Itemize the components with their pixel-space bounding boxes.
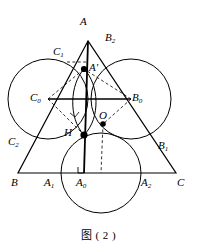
label-A1: A1: [44, 177, 54, 188]
point-a-prime: [81, 66, 87, 72]
geometry-figure: A B C A' H O A0 A1 A2 B0 B1 B2 C0 C1 C2: [0, 0, 197, 249]
label-B2: B2: [105, 32, 115, 43]
label-A-prime: A': [89, 62, 98, 73]
dashed-c0-aprime: [48, 69, 84, 99]
right-angle-mark-h: [70, 112, 79, 117]
label-C1: C1: [53, 46, 64, 57]
label-B0: B0: [132, 92, 142, 103]
label-A0: A0: [76, 177, 86, 188]
label-C: C: [177, 177, 184, 188]
label-A2: A2: [141, 177, 151, 188]
right-angle-mark-a0: [78, 167, 84, 173]
label-C2: C2: [8, 136, 19, 147]
label-H: H: [64, 127, 72, 138]
dashed-o-a0: [101, 124, 103, 173]
label-C0: C0: [30, 92, 41, 103]
point-o: [100, 121, 106, 127]
geometry-canvas: [0, 0, 197, 249]
label-B: B: [11, 177, 18, 188]
label-O: O: [99, 110, 107, 121]
label-A: A: [80, 16, 87, 27]
point-h: [80, 131, 87, 138]
dashed-b0-o: [103, 99, 131, 124]
figure-caption: 图 ( 2 ): [0, 226, 197, 242]
label-B1: B1: [158, 140, 168, 151]
